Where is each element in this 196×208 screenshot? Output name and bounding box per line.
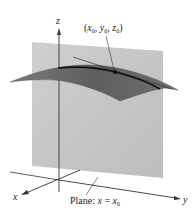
- x-axis-label: x: [12, 191, 18, 202]
- plane-label: Plane: x = x0: [70, 195, 120, 207]
- y-axis-arrow-icon: [174, 196, 181, 200]
- y-axis-label: y: [182, 194, 188, 205]
- z-axis-arrow-icon: [57, 28, 61, 35]
- point-label: (x0, y0, z0): [84, 22, 123, 34]
- plane-x-equals-x0: [32, 42, 163, 178]
- z-axis-label: z: [55, 15, 60, 26]
- x-axis-arrow-icon: [21, 190, 29, 195]
- y-axis-negative: [10, 172, 59, 180]
- x-axis: [26, 170, 80, 193]
- diagram-canvas: z x y (x0, y0, z0) Plane: x = x0: [0, 0, 196, 208]
- point-x0-y0-z0: [113, 70, 117, 74]
